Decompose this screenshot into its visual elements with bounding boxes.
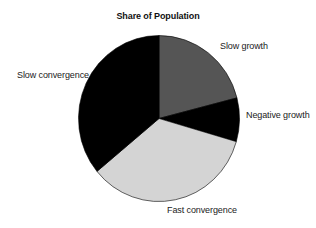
pie-chart: Share of Population Slow growth Negative… (0, 0, 316, 228)
label-slow-convergence: Slow convergence (17, 70, 89, 80)
label-fast-convergence: Fast convergence (167, 205, 237, 215)
label-negative-growth: Negative growth (246, 110, 310, 120)
label-slow-growth: Slow growth (220, 41, 268, 51)
